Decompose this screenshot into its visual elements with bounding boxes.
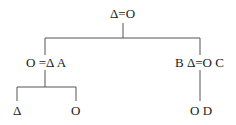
right-node-label: B Δ=O C xyxy=(175,56,224,70)
root-node-label: Δ=O xyxy=(110,7,135,21)
tree-diagram: Δ=O O =Δ A B Δ=O C Δ O O D xyxy=(0,0,236,125)
left-leaf-1-label: Δ xyxy=(13,104,21,118)
left-leaf-2-label: O xyxy=(71,104,80,118)
left-node-label: O =Δ A xyxy=(26,56,66,70)
right-leaf-label: O D xyxy=(190,104,212,118)
